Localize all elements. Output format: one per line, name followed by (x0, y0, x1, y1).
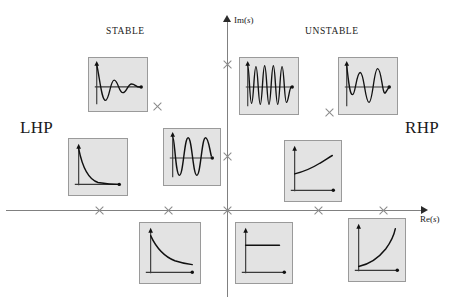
response-box-exponential-growth-fast (348, 218, 406, 282)
rhp-label: RHP (405, 118, 439, 138)
real-axis-line (6, 210, 421, 211)
damped-oscillation-plot-icon (89, 58, 147, 111)
response-box-damped-oscillation (88, 57, 148, 112)
imaginary-axis-arrow-icon (223, 15, 231, 22)
pole-marker-imag-upper (222, 59, 233, 70)
imaginary-axis-label-close: ) (251, 15, 254, 25)
real-axis-arrow-icon (421, 206, 428, 214)
stable-region-label: STABLE (106, 26, 145, 36)
imaginary-axis-label: Im(s) (234, 15, 254, 25)
pole-marker-real-left (163, 205, 174, 216)
pole-marker-complex-lhp (152, 101, 163, 112)
growing-oscillation-slow-plot-icon (339, 58, 397, 114)
response-box-exponential-decay-slow (139, 222, 201, 284)
response-box-exponential-decay-fast (68, 138, 128, 196)
exponential-decay-fast-plot-icon (69, 139, 127, 195)
exponential-growth-fast-plot-icon (349, 219, 405, 281)
s-plane-diagram: Im(s) Re(s) STABLE UNSTABLE LHP RHP (0, 0, 461, 299)
constant-step-plot-icon (236, 223, 292, 283)
response-box-growing-oscillation-slow (338, 57, 398, 115)
pole-marker-real-right (313, 205, 324, 216)
response-box-exponential-growth-slow (284, 140, 342, 202)
pole-marker-imag-lower (222, 151, 233, 162)
real-axis-label: Re(s) (420, 214, 440, 224)
imaginary-axis-label-text: Im( (234, 15, 247, 25)
pole-marker-complex-rhp (324, 107, 335, 118)
exponential-decay-slow-plot-icon (140, 223, 200, 283)
exponential-growth-slow-plot-icon (285, 141, 341, 201)
pole-marker-origin (222, 205, 233, 216)
response-box-sustained-oscillation (163, 128, 221, 186)
real-axis-label-text: Re( (420, 214, 433, 224)
unstable-region-label: UNSTABLE (305, 26, 359, 36)
growing-oscillation-fast-plot-icon (240, 58, 298, 114)
pole-marker-real-far-left (94, 205, 105, 216)
lhp-label: LHP (20, 118, 53, 138)
response-box-constant-step (235, 222, 293, 284)
sustained-oscillation-plot-icon (164, 129, 220, 185)
pole-marker-real-far-right (378, 205, 389, 216)
response-box-growing-oscillation-fast (239, 57, 299, 115)
real-axis-label-close: ) (437, 214, 440, 224)
